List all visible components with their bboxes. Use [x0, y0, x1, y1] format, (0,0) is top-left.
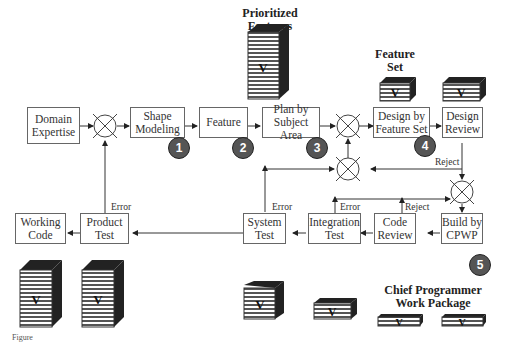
step-badge-1: 1 — [168, 137, 190, 159]
svg-text:V: V — [457, 86, 466, 100]
svg-text:V: V — [93, 292, 103, 307]
edge-label-error-integration: Error — [340, 202, 360, 212]
step-badge-4: 4 — [414, 135, 436, 157]
box-plan-by-subject-area: Plan by Subject Area — [262, 107, 320, 138]
box-working-code: Working Code — [15, 213, 66, 244]
step-badge-2: 2 — [232, 137, 254, 159]
step-badge-3: 3 — [306, 137, 328, 159]
box-design-review: Design Review — [442, 107, 483, 138]
box-design-by-feature-set: Design by Feature Set — [373, 107, 430, 138]
svg-text:V: V — [258, 60, 268, 75]
title-chief-programmer-work-package: Chief Programmer Work Package — [378, 284, 488, 310]
box-shape-modeling: Shape Modeling — [130, 107, 185, 138]
svg-text:V: V — [458, 317, 466, 328]
box-feature: Feature — [199, 107, 248, 138]
svg-text:V: V — [328, 305, 337, 319]
edge-label-reject-design: Reject — [435, 157, 459, 167]
svg-text:V: V — [31, 292, 41, 307]
figure-caption: Figure — [12, 333, 33, 342]
box-domain-expertise: Domain Expertise — [27, 107, 80, 144]
box-code-review: Code Review — [374, 213, 416, 244]
title-feature-set: Feature Set — [370, 48, 420, 74]
svg-text:V: V — [255, 297, 265, 312]
edge-label-error-system: Error — [272, 202, 292, 212]
svg-text:V: V — [391, 86, 400, 100]
edge-label-error-product: Error — [111, 202, 131, 212]
document-stack-icon: V — [248, 24, 289, 99]
title-prioritized-features: Prioritized Features — [240, 7, 300, 33]
box-build-by-cpwp: Build by CPWP — [441, 213, 483, 244]
svg-text:V: V — [395, 317, 403, 328]
edge-label-reject-code: Reject — [405, 202, 429, 212]
box-system-test: System Test — [243, 213, 286, 244]
step-badge-5: 5 — [469, 254, 491, 276]
box-integration-test: Integration Test — [308, 213, 361, 244]
box-product-test: Product Test — [80, 213, 129, 244]
